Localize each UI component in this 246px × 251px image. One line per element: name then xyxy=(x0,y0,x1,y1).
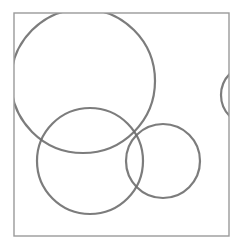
diagram-canvas xyxy=(0,0,246,251)
background xyxy=(0,0,246,251)
